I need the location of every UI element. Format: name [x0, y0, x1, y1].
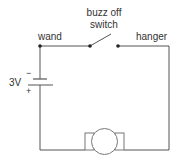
switch-arm: [90, 34, 111, 46]
buzzer-icon: [85, 129, 124, 155]
switch-contact-node: [116, 44, 120, 48]
hanger-label: hanger: [136, 31, 167, 42]
switch-label-line2: switch: [82, 19, 126, 30]
battery-positive-sign: +: [26, 86, 31, 97]
battery-voltage-label: 3V: [9, 77, 21, 88]
switch-label-line1: buzz off: [82, 7, 126, 18]
wand-label: wand: [38, 31, 62, 42]
switch-pivot-node: [88, 44, 92, 48]
battery-negative-sign: −: [26, 68, 31, 79]
wand-node: [38, 44, 42, 48]
